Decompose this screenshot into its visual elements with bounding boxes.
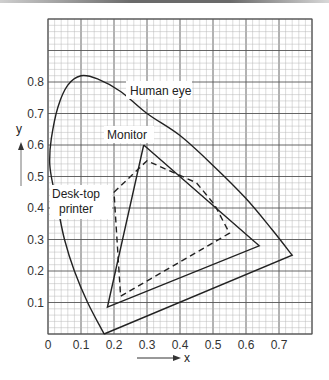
y-axis-label: y xyxy=(16,122,22,136)
y-arrow-head-icon xyxy=(18,142,24,150)
desk-top-printer-gamut xyxy=(114,161,230,296)
x-arrow-head-icon xyxy=(173,355,181,361)
y-tick-label: 0.4 xyxy=(27,201,44,215)
y-tick-label: 0.7 xyxy=(27,107,44,121)
x-tick-label: 0.6 xyxy=(238,338,255,352)
x-tick-label: 0.2 xyxy=(106,338,123,352)
y-tick-label: 0.6 xyxy=(27,138,44,152)
x-tick-label: 0.4 xyxy=(172,338,189,352)
monitor-gamut xyxy=(107,145,259,307)
x-tick-label: 0.3 xyxy=(139,338,156,352)
monitor-label: Monitor xyxy=(107,128,147,142)
y-tick-label: 0.8 xyxy=(27,75,44,89)
printer-label-line1: Desk-top xyxy=(52,187,100,201)
x-tick-label: 0.1 xyxy=(73,338,90,352)
y-tick-label: 0.1 xyxy=(27,296,44,310)
x-tick-label: 0 xyxy=(45,338,52,352)
y-tick-label: 0.2 xyxy=(27,264,44,278)
human-eye-label: Human eye xyxy=(130,84,192,98)
chromaticity-chart: 00.10.20.30.40.50.60.70.10.20.30.40.50.6… xyxy=(0,0,329,380)
x-tick-label: 0.5 xyxy=(205,338,222,352)
x-tick-label: 0.7 xyxy=(271,338,288,352)
y-tick-label: 0.3 xyxy=(27,233,44,247)
printer-label-line2: printer xyxy=(59,202,93,216)
y-tick-label: 0.5 xyxy=(27,170,44,184)
x-axis-label: x xyxy=(184,351,190,365)
